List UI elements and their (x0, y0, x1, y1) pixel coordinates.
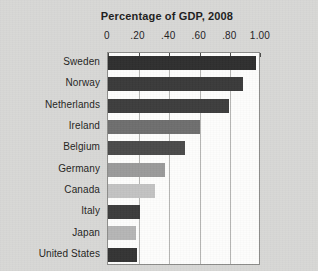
bar-japan (108, 226, 136, 240)
plot-area (107, 52, 260, 265)
x-tick-label: 0 (104, 30, 110, 41)
bar-series (108, 53, 259, 264)
category-label-belgium: Belgium (63, 141, 100, 152)
x-tick-label: .60 (192, 30, 207, 41)
chart-title-text: Percentage of GDP, 2008 (101, 10, 233, 22)
bar-row (108, 138, 259, 159)
category-label-norway: Norway (66, 77, 101, 88)
category-label-germany: Germany (58, 163, 100, 174)
category-label-sweden: Sweden (63, 56, 100, 67)
bar-sweden (108, 56, 256, 70)
bar-row (108, 117, 259, 138)
category-label-canada: Canada (64, 184, 100, 195)
bar-canada (108, 184, 155, 198)
bar-row (108, 202, 259, 223)
bar-row (108, 53, 259, 74)
bar-ireland (108, 120, 200, 134)
x-axis-tick-labels: 0.20.40.60.801.00 (107, 30, 260, 44)
bar-united-states (108, 248, 137, 262)
x-tick-label: .40 (161, 30, 176, 41)
category-label-netherlands: Netherlands (45, 99, 100, 110)
bar-row (108, 96, 259, 117)
chart-title: Percentage of GDP, 2008 (0, 10, 318, 22)
x-tick-label: .80 (222, 30, 237, 41)
category-label-ireland: Ireland (69, 120, 100, 131)
bar-germany (108, 163, 165, 177)
category-label-italy: Italy (81, 205, 100, 216)
bar-row (108, 181, 259, 202)
category-axis-labels: SwedenNorwayNetherlandsIrelandBelgiumGer… (0, 52, 104, 265)
bar-norway (108, 77, 243, 91)
bar-row (108, 160, 259, 181)
bar-row (108, 74, 259, 95)
category-label-japan: Japan (72, 227, 100, 238)
bar-italy (108, 205, 140, 219)
x-tick-label: 1.00 (250, 30, 270, 41)
x-tick-mark (260, 53, 261, 57)
bar-row (108, 245, 259, 266)
bar-netherlands (108, 99, 229, 113)
x-tick-label: .20 (130, 30, 145, 41)
bar-chart-figure: Percentage of GDP, 2008 0.20.40.60.801.0… (0, 0, 318, 271)
bar-belgium (108, 141, 185, 155)
category-label-united-states: United States (39, 248, 100, 259)
bar-row (108, 223, 259, 244)
